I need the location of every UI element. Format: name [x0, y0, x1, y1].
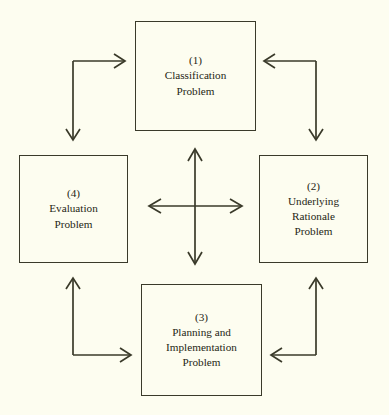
node-number: (4) [67, 186, 80, 201]
elbow-arrow-top-left [66, 54, 125, 140]
elbow-arrow-top-right [264, 54, 323, 140]
node-label: Classification Problem [165, 68, 227, 98]
cycle-diagram: .ln { stroke: #3a3a2a; stroke-width: 1.7… [0, 0, 389, 415]
node-label: Planning and Implementation Problem [166, 325, 237, 370]
elbow-arrow-bottom-right [271, 278, 323, 362]
node-number: (1) [189, 53, 202, 68]
elbow-arrow-bottom-left [66, 278, 131, 362]
node-label: Evaluation Problem [49, 201, 97, 231]
node-number: (3) [195, 310, 208, 325]
node-box-evaluation-problem[interactable]: (4) Evaluation Problem [19, 155, 128, 263]
node-box-classification-problem[interactable]: (1) Classification Problem [135, 21, 256, 131]
node-box-planning-implementation-problem[interactable]: (3) Planning and Implementation Problem [141, 284, 262, 396]
node-box-underlying-rationale-problem[interactable]: (2) Underlying Rationale Problem [259, 155, 368, 263]
node-label: Underlying Rationale Problem [288, 194, 339, 239]
node-number: (2) [307, 179, 320, 194]
center-cross-arrow [149, 149, 242, 264]
